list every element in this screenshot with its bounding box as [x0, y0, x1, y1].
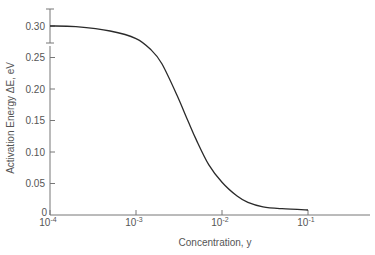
- y-tick-label: 0.05: [26, 178, 46, 189]
- x-tick-label: 10-3: [125, 216, 142, 228]
- y-tick-label: 0.20: [26, 84, 46, 95]
- data-line: [50, 26, 308, 210]
- x-tick-label: 10-4: [39, 216, 56, 228]
- y-tick-label: 0.10: [26, 147, 46, 158]
- chart: 00.050.100.150.200.250.30 10-410-310-210…: [0, 0, 375, 255]
- x-tick-label: 10-1: [297, 216, 314, 228]
- y-ticks: 00.050.100.150.200.250.30: [26, 21, 55, 219]
- y-tick-label: 0.15: [26, 115, 46, 126]
- y-tick-label: 0.25: [26, 52, 46, 63]
- x-axis-title: Concentration, y: [179, 237, 252, 248]
- axes: [46, 9, 370, 215]
- y-tick-label: 0.30: [26, 21, 46, 32]
- x-ticks: 10-410-310-210-1: [39, 210, 314, 228]
- x-tick-label: 10-2: [211, 216, 228, 228]
- y-axis-title: Activation Energy ΔE, eV: [5, 62, 16, 174]
